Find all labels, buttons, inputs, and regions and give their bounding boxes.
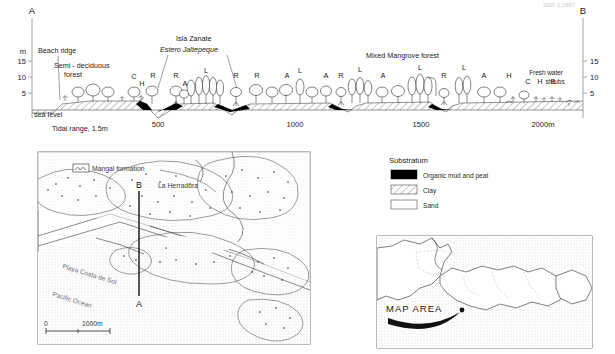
map-transect-label-b: B: [136, 180, 142, 190]
species-code: R: [441, 71, 446, 80]
label-tidal-range: Tidal range, 1.5m: [52, 124, 108, 133]
species-code: H: [537, 77, 542, 86]
inset-map-panel: MAP AREA: [377, 236, 592, 348]
legend-swatch-organic-mud: [391, 170, 417, 179]
map-transect-label-a: A: [136, 299, 142, 309]
legend-swatch-clay: [391, 185, 417, 194]
species-code: R: [150, 71, 155, 80]
species-code: H: [506, 71, 511, 80]
y-tick-label-r-15: 15: [590, 57, 598, 66]
profile-endpoint-a: A: [29, 5, 36, 16]
label-beach-ridge: Beach ridge: [38, 46, 76, 55]
species-code: B: [551, 77, 556, 86]
species-code: L: [204, 66, 208, 75]
species-code: H: [139, 79, 144, 88]
label-isla-zanate: Isla Zanate: [176, 34, 212, 43]
map-label-la-herradura: La Herradura: [158, 182, 198, 189]
y-tick-label-15: 15: [18, 57, 26, 66]
main-map-panel: B A La Herradura Playa Costa de Sol Paci…: [34, 152, 310, 344]
scale-label-zero: 0: [44, 320, 48, 327]
scale-label-max: 1000m: [82, 320, 103, 327]
substratum-legend: Substratum Organic mud and peat Clay San…: [389, 156, 488, 209]
species-code-labels: C H R R L A R R A L A R L A L R L A H C …: [131, 63, 555, 88]
legend-title: Substratum: [389, 156, 428, 165]
mud-pocket-3: [214, 104, 250, 112]
profile-panel: m 15 10 5 A 15 10 5 B: [18, 5, 599, 133]
species-code: C: [525, 77, 531, 86]
legend-swatch-sand: [391, 200, 417, 209]
species-code: R: [233, 71, 238, 80]
x-tick-2000: 2000m: [531, 120, 554, 129]
y-tick-label-r-5: 5: [590, 89, 594, 98]
species-code: A: [183, 79, 188, 88]
x-tick-1000: 1000: [287, 120, 304, 129]
legend-label-organic-mud: Organic mud and peat: [423, 172, 488, 180]
inset-label-map-area: MAP AREA: [386, 303, 442, 314]
x-tick-500: 500: [152, 120, 165, 129]
species-code: A: [285, 71, 290, 80]
species-code: L: [418, 63, 422, 72]
clay-substrate-band: [32, 101, 583, 118]
map-area-dot: [460, 308, 465, 313]
y-axis-unit: m: [20, 47, 26, 56]
species-code: L: [298, 66, 302, 75]
y-tick-label-r-10: 10: [590, 73, 598, 82]
profile-endpoint-b: B: [580, 5, 586, 16]
species-code: R: [338, 71, 343, 80]
label-sea-level: sea level: [34, 110, 63, 119]
species-code: R: [173, 71, 178, 80]
vegetation-semi-deciduous: [63, 84, 125, 102]
vegetation-mangrove-belt: [128, 74, 580, 106]
species-code: A: [381, 71, 386, 80]
species-code: L: [358, 65, 362, 74]
label-fresh-water: Fresh water: [529, 69, 564, 76]
map-key-label: Mangal formation: [92, 165, 145, 173]
x-tick-1500: 1500: [413, 120, 430, 129]
estero-leader-left: [158, 55, 168, 88]
y-tick-label-5: 5: [22, 89, 26, 98]
label-semi-deciduous: Semi - deciduous: [54, 61, 110, 70]
label-estero-jaltepeque: Estero Jaltepeque: [160, 45, 218, 54]
species-code: C: [131, 72, 137, 81]
species-code: A: [482, 71, 487, 80]
legend-label-sand: Sand: [423, 202, 439, 209]
figure-mangrove-transect: SEP 2 1997 m 15 10 5 A 15 10 5 B: [0, 0, 615, 354]
corner-note: SEP 2 1997: [543, 2, 576, 8]
species-code: R: [254, 71, 259, 80]
species-code: A: [324, 71, 329, 80]
label-semi-deciduous-forest: forest: [64, 70, 82, 79]
y-tick-label-10: 10: [18, 73, 26, 82]
label-mixed-mangrove-forest: Mixed Mangrove forest: [366, 51, 439, 60]
legend-label-clay: Clay: [423, 187, 437, 195]
species-code: L: [462, 63, 466, 72]
